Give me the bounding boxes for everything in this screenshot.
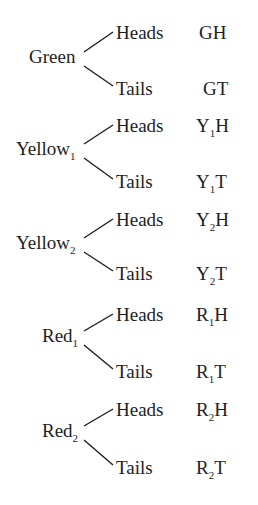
branch-line-tails <box>84 345 113 369</box>
branch-label-heads: Heads <box>116 209 163 230</box>
branch-label-tails: Tails <box>116 171 153 192</box>
outcome-letter: G <box>203 78 217 99</box>
outcome-label: R1T <box>196 361 226 385</box>
branch-label-heads: Heads <box>116 115 163 136</box>
outcome-label: GT <box>203 78 229 99</box>
branch-label-heads: Heads <box>116 304 163 325</box>
root-name: Red <box>42 325 73 346</box>
root-node-label: Yellow1 <box>16 138 76 162</box>
root-node-label: Green <box>29 46 76 67</box>
outcome-letter: Y <box>196 209 210 230</box>
outcome-label: R2T <box>196 457 226 481</box>
outcome-label: Y2T <box>196 263 227 287</box>
branch-label-heads: Heads <box>116 22 163 43</box>
outcome-letter: R <box>196 361 209 382</box>
root-subscript: 2 <box>73 432 79 444</box>
outcome-label: R1H <box>196 304 228 328</box>
outcome-letter: G <box>199 22 213 43</box>
outcome-letter: Y <box>196 115 210 136</box>
branch-line-tails <box>84 66 113 86</box>
branch-line-heads <box>84 314 113 331</box>
branch-line-heads <box>84 409 113 426</box>
root-node-label: Red2 <box>42 420 78 444</box>
root-node-label: Red1 <box>42 325 78 349</box>
tree-group-red-2: Red2HeadsR2HTailsR2T <box>42 399 228 481</box>
branch-line-tails <box>84 252 113 271</box>
root-name: Yellow <box>16 232 70 253</box>
outcome-letter: Y <box>196 263 210 284</box>
tree-group-yellow-1: Yellow1HeadsY1HTailsY1T <box>16 115 229 195</box>
branch-line-tails <box>84 158 113 179</box>
root-name: Green <box>29 46 76 67</box>
branch-label-tails: Tails <box>116 361 153 382</box>
outcome-coin: H <box>214 304 228 325</box>
outcome-coin: T <box>214 457 226 478</box>
outcome-label: Y2H <box>196 209 229 233</box>
outcome-coin: T <box>217 78 229 99</box>
branch-line-heads <box>84 32 113 52</box>
branch-label-heads: Heads <box>116 399 163 420</box>
outcome-label: GH <box>199 22 227 43</box>
root-subscript: 1 <box>73 337 79 349</box>
outcome-letter: R <box>196 457 209 478</box>
outcome-coin: H <box>215 209 229 230</box>
outcome-coin: H <box>215 115 229 136</box>
outcome-label: Y1T <box>196 171 227 195</box>
outcome-coin: T <box>215 263 227 284</box>
root-name: Red <box>42 420 73 441</box>
outcome-letter: R <box>196 304 209 325</box>
tree-group-yellow-2: Yellow2HeadsY2HTailsY2T <box>16 209 229 287</box>
branch-line-heads <box>84 125 113 144</box>
tree-diagram: GreenHeadsGHTailsGTYellow1HeadsY1HTailsY… <box>0 0 258 505</box>
outcome-label: Y1H <box>196 115 229 139</box>
branch-label-tails: Tails <box>116 457 153 478</box>
outcome-letter: Y <box>196 171 210 192</box>
outcome-label: R2H <box>196 399 228 423</box>
outcome-coin: H <box>213 22 227 43</box>
branch-line-heads <box>84 219 113 238</box>
branch-line-tails <box>84 440 113 465</box>
outcome-coin: T <box>214 361 226 382</box>
tree-group-green: GreenHeadsGHTailsGT <box>29 22 229 99</box>
outcome-coin: T <box>215 171 227 192</box>
root-name: Yellow <box>16 138 70 159</box>
outcome-letter: R <box>196 399 209 420</box>
root-subscript: 2 <box>70 244 76 256</box>
root-subscript: 1 <box>70 150 76 162</box>
outcome-coin: H <box>214 399 228 420</box>
tree-group-red-1: Red1HeadsR1HTailsR1T <box>42 304 228 385</box>
branch-label-tails: Tails <box>116 263 153 284</box>
root-node-label: Yellow2 <box>16 232 76 256</box>
branch-label-tails: Tails <box>116 78 153 99</box>
